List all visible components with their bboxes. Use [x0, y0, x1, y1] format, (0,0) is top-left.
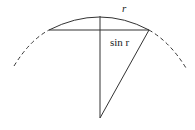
diagram-canvas: r sin r — [0, 0, 195, 130]
half-chord-label: sin r — [110, 36, 130, 48]
arc-dashed-left — [14, 30, 49, 66]
arc-dashed-right — [149, 30, 186, 68]
arc-label: r — [122, 2, 127, 14]
arc-solid — [49, 17, 149, 30]
